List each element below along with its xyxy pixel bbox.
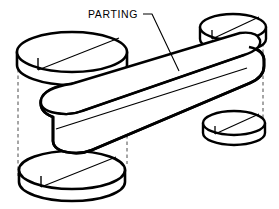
figure-container: PARTING — [0, 0, 279, 209]
disc-lower-left — [19, 151, 125, 201]
disc-lower-right-top-face — [203, 111, 265, 135]
parting-label: PARTING — [88, 8, 138, 20]
parting-line-illustration: PARTING — [0, 0, 279, 209]
disc-lower-right — [203, 111, 265, 145]
disc-lower-left-top-face — [19, 151, 125, 189]
disc-upper-left-top-face — [17, 32, 127, 72]
